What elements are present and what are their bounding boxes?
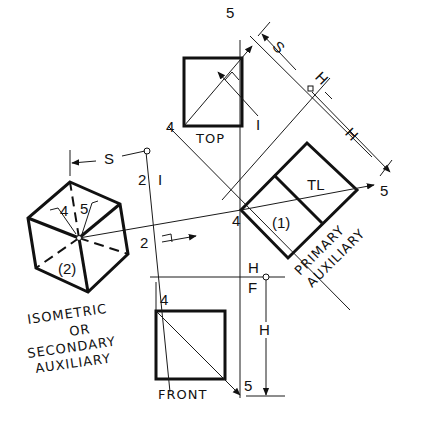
- aux-tl-label: TL: [307, 176, 325, 193]
- iso-region-label: (2): [58, 260, 76, 277]
- view-direction-2-arrow: [162, 236, 196, 242]
- view-direction-1-label: I: [256, 116, 260, 133]
- s-ext-line: [258, 22, 270, 36]
- iso-edge-down: [79, 238, 88, 292]
- top-view-label: TOP: [195, 131, 225, 146]
- isometric-label: ISOMETRIC: [26, 301, 108, 327]
- iso-point-4-label: 4: [60, 202, 68, 219]
- fold-line-h-1-marker: [308, 86, 313, 91]
- front-view-label: FRONT: [158, 387, 207, 402]
- iso-point-5-label: 5: [80, 200, 88, 217]
- h-aux-ext-line: [380, 160, 392, 176]
- h-front-label: H: [259, 321, 270, 338]
- s-top-label: S: [269, 37, 288, 56]
- fold-1-label: I: [158, 171, 162, 188]
- fold-h-upper-label: H: [312, 68, 332, 88]
- fold-line-2-1: [146, 152, 170, 392]
- sight-line-4-5: [79, 210, 241, 238]
- auxiliary-views-diagram: I 4 5 TOP S H H TL (1) 4 5 PRIMARY AUXIL…: [0, 0, 424, 427]
- fold-h-lower-label: H: [248, 259, 259, 276]
- top-point-4-label: 4: [166, 118, 174, 135]
- top-point-5-label: 5: [226, 4, 234, 21]
- iso-hidden-right: [79, 238, 128, 254]
- front-view: 4 5 FRONT: [156, 282, 252, 402]
- fold-line-h-f-marker: [263, 274, 269, 280]
- iso-hidden-up: [70, 182, 79, 238]
- s-iso-dim-right: [122, 151, 145, 156]
- fold-f-label: F: [248, 279, 257, 296]
- fold-2-label: 2: [138, 171, 146, 188]
- or-label: OR: [68, 321, 91, 339]
- view-direction-2-label: 2: [140, 234, 148, 251]
- aux-point-5-label: 5: [380, 182, 388, 199]
- iso-point-4-5: [77, 236, 82, 241]
- s-iso-dim-left: [72, 161, 96, 163]
- front-point-5-label: 5: [244, 377, 252, 394]
- s-iso-label: S: [104, 150, 114, 167]
- aux-region-label: (1): [272, 214, 290, 231]
- fold-1-tick: [325, 92, 332, 99]
- aux-point-4-label: 4: [232, 212, 240, 229]
- isometric-view: 4 5 (2) ISOMETRIC OR SECONDARY AUXILIARY: [26, 182, 128, 376]
- top-view: I 4 5 TOP: [166, 4, 260, 146]
